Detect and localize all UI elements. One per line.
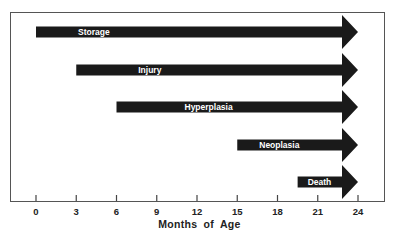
bar-label: Death — [308, 177, 332, 187]
x-tick-label: 0 — [33, 206, 38, 217]
x-axis-label: Months of Age — [0, 218, 395, 230]
x-tick-label: 15 — [232, 206, 243, 217]
bar-label: Injury — [138, 65, 161, 75]
x-tick-label: 12 — [192, 206, 203, 217]
bar-label: Hyperplasia — [185, 102, 233, 112]
arrow-bar-neoplasia: Neoplasia — [237, 128, 358, 162]
x-tick-label: 24 — [353, 206, 364, 217]
arrow-bar-storage: Storage — [36, 15, 358, 49]
arrow-bar-hyperplasia: Hyperplasia — [117, 90, 359, 124]
x-tick-label: 6 — [114, 206, 119, 217]
x-tick-label: 18 — [272, 206, 283, 217]
timeline-chart: 03691215182124StorageInjuryHyperplasiaNe… — [0, 0, 395, 237]
x-tick-label: 3 — [74, 206, 79, 217]
bar-label: Neoplasia — [259, 140, 299, 150]
x-tick-label: 21 — [312, 206, 323, 217]
x-tick-label: 9 — [154, 206, 159, 217]
arrow-bar-injury: Injury — [76, 53, 358, 87]
bar-label: Storage — [78, 27, 110, 37]
arrow-bar-death: Death — [298, 165, 358, 199]
